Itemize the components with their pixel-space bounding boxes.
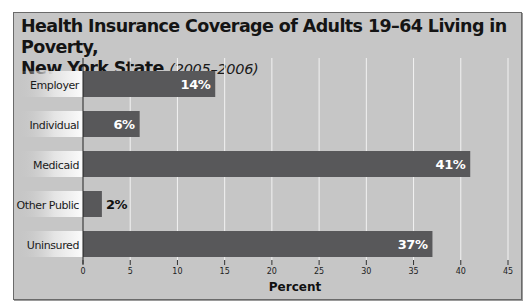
- x-tick-label: 15: [220, 267, 230, 276]
- x-tick-label: 20: [267, 267, 277, 276]
- category-label: Uninsured: [27, 239, 79, 252]
- x-tick-label: 10: [172, 267, 182, 276]
- data-label: 6%: [114, 117, 136, 132]
- data-label: 2%: [106, 197, 128, 212]
- x-tick-label: 45: [503, 267, 513, 276]
- category-label: Employer: [30, 79, 80, 92]
- x-tick-label: 0: [80, 267, 85, 276]
- x-tick-label: 25: [314, 267, 324, 276]
- data-label: 41%: [436, 157, 466, 172]
- x-tick-label: 35: [408, 267, 418, 276]
- x-tick-label: 30: [361, 267, 371, 276]
- category-label: Individual: [29, 119, 79, 132]
- x-axis-label: Percent: [269, 280, 322, 294]
- bar: [83, 191, 102, 217]
- data-label: 37%: [398, 237, 428, 252]
- bar-chart: EmployerIndividualMedicaidOther PublicUn…: [0, 0, 529, 306]
- bars: 14%6%41%2%37%: [83, 71, 470, 257]
- bar: [83, 151, 470, 177]
- data-label: 14%: [181, 77, 211, 92]
- category-label-backgrounds: EmployerIndividualMedicaidOther PublicUn…: [17, 71, 83, 257]
- category-label: Other Public: [17, 199, 80, 212]
- x-tick-label: 5: [128, 267, 133, 276]
- category-label: Medicaid: [33, 159, 79, 172]
- bar: [83, 231, 432, 257]
- x-tick-label: 40: [456, 267, 466, 276]
